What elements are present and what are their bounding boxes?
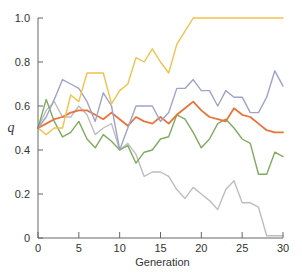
x-tick-label: 0 [35, 242, 41, 254]
y-tick-label: 0.6 [15, 100, 30, 112]
x-tick-label: 10 [114, 242, 126, 254]
y-tick-label: 0.4 [15, 144, 30, 156]
x-tick-label: 30 [277, 242, 289, 254]
x-tick-label: 20 [195, 242, 207, 254]
x-tick-label: 5 [76, 242, 82, 254]
y-tick-label: 0.8 [15, 56, 30, 68]
y-tick-label: 0.2 [15, 188, 30, 200]
y-axis-title: q [8, 120, 15, 135]
axes: 00.20.40.60.81.0 051015202530 Generation… [8, 12, 290, 268]
x-tick-label: 15 [154, 242, 166, 254]
series-lines [38, 18, 283, 236]
line-chart: 00.20.40.60.81.0 051015202530 Generation… [0, 0, 302, 278]
y-tick-label: 1.0 [15, 12, 30, 24]
x-axis-title: Generation [135, 256, 189, 268]
x-tick-label: 25 [236, 242, 248, 254]
x-axis-ticks: 051015202530 [35, 232, 289, 254]
y-tick-label: 0 [24, 232, 30, 244]
